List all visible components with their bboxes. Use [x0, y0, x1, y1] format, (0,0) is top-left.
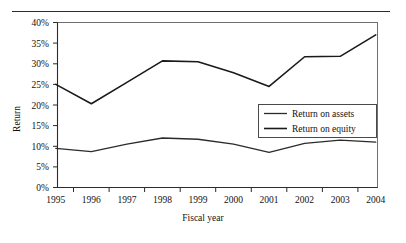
y-tick-label: 0% [36, 183, 49, 193]
y-tick-label: 40% [32, 18, 50, 28]
x-axis-tick-labels: 1995 1996 1997 1998 1999 2000 2001 2002 … [46, 195, 385, 205]
x-tick-label: 2000 [224, 195, 243, 205]
y-tick-label: 25% [32, 80, 50, 90]
series-line-return-on-equity [56, 35, 376, 104]
legend-label-return-on-assets: Return on assets [292, 109, 355, 119]
y-tick-label: 10% [32, 142, 50, 152]
x-tick-label: 1998 [153, 195, 172, 205]
x-tick-label: 2004 [366, 195, 385, 205]
y-axis-tick-labels: 40% 35% 30% 25% 20% 15% 10% 5% 0% [32, 18, 50, 193]
figure-container: 40% 35% 30% 25% 20% 15% 10% 5% 0% Return [0, 0, 406, 243]
y-tick-label: 30% [32, 59, 50, 69]
y-tick-label: 5% [36, 162, 49, 172]
series-line-return-on-assets [56, 138, 376, 152]
y-axis-title: Return [12, 106, 22, 132]
x-axis-ticks [74, 188, 358, 193]
y-axis-ticks [53, 23, 58, 188]
x-axis-title: Fiscal year [182, 213, 224, 223]
y-tick-label: 35% [32, 39, 50, 49]
x-tick-label: 1999 [189, 195, 208, 205]
y-tick-label: 20% [32, 101, 50, 111]
x-tick-label: 2003 [331, 195, 350, 205]
legend: Return on assets Return on equity [259, 105, 377, 138]
x-tick-label: 1996 [82, 195, 101, 205]
legend-label-return-on-equity: Return on equity [292, 124, 356, 134]
x-tick-label: 1995 [46, 195, 65, 205]
chart-canvas: 40% 35% 30% 25% 20% 15% 10% 5% 0% Return [0, 0, 406, 243]
x-tick-label: 1997 [117, 195, 136, 205]
y-tick-label: 15% [32, 121, 50, 131]
x-tick-label: 2001 [260, 195, 279, 205]
x-tick-label: 2002 [295, 195, 314, 205]
